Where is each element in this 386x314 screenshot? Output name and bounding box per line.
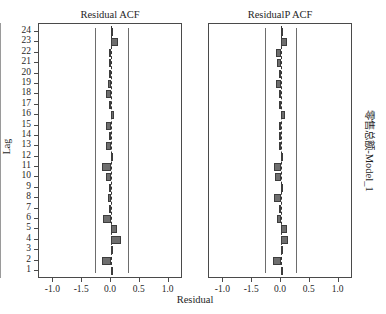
lag-tick-label: 2 bbox=[26, 255, 31, 265]
lag-tick-label: 5 bbox=[26, 223, 31, 233]
lag-tick-label: 17 bbox=[22, 99, 32, 109]
acf-bar bbox=[109, 49, 111, 57]
acf-bar bbox=[108, 80, 111, 88]
acf-bar bbox=[111, 236, 121, 244]
lag-tick-mark bbox=[34, 239, 38, 240]
x-tick-mark bbox=[338, 278, 339, 282]
lag-tick-label: 9 bbox=[26, 182, 31, 192]
acf-bar bbox=[281, 28, 283, 36]
acf-bar bbox=[109, 70, 111, 78]
acf-bar bbox=[281, 236, 288, 244]
acf-bar bbox=[109, 101, 111, 109]
acf-bar bbox=[274, 194, 281, 202]
acf-bar bbox=[275, 173, 281, 181]
lag-tick-mark bbox=[34, 114, 38, 115]
lag-tick-mark bbox=[34, 218, 38, 219]
lag-tick-mark bbox=[34, 41, 38, 42]
acf-bar bbox=[106, 142, 111, 150]
acf-bar bbox=[281, 111, 285, 119]
lag-tick-label: 22 bbox=[22, 47, 32, 57]
x-tick-label: 0.5 bbox=[303, 284, 315, 294]
acf-bar bbox=[111, 246, 113, 254]
lag-tick-label: 1 bbox=[26, 265, 31, 275]
acf-bar bbox=[281, 225, 287, 233]
panel-title-acf: Residual ACF bbox=[38, 9, 182, 21]
lag-tick-mark bbox=[34, 135, 38, 136]
acf-bar bbox=[106, 90, 111, 98]
lag-tick-mark bbox=[34, 125, 38, 126]
x-tick-mark bbox=[168, 278, 169, 282]
acf-bar bbox=[279, 132, 281, 140]
acf-bar bbox=[274, 163, 281, 171]
acf-bar bbox=[111, 267, 113, 275]
x-tick-label: 0.0 bbox=[104, 284, 116, 294]
x-tick-mark bbox=[139, 278, 140, 282]
x-tick-mark bbox=[81, 278, 82, 282]
acf-bar bbox=[279, 122, 281, 130]
x-tick-label: -1.5 bbox=[74, 284, 89, 294]
acf-bar bbox=[106, 122, 111, 130]
lag-tick-mark bbox=[34, 260, 38, 261]
plot-panel-acf bbox=[38, 23, 182, 278]
plot-area-acf bbox=[39, 24, 181, 277]
lag-tick-mark bbox=[34, 52, 38, 53]
lag-tick-mark bbox=[34, 249, 38, 250]
lag-tick-label: 23 bbox=[22, 36, 32, 46]
model-label-container: 零售总额-Model_1 bbox=[356, 23, 382, 278]
lag-tick-mark bbox=[34, 187, 38, 188]
acf-bar bbox=[281, 246, 283, 254]
acf-bar bbox=[103, 215, 111, 223]
acf-bar bbox=[281, 267, 283, 275]
acf-bar bbox=[102, 163, 111, 171]
lag-tick-mark bbox=[34, 156, 38, 157]
confidence-limit-line-upper bbox=[128, 28, 129, 273]
acf-bar bbox=[109, 132, 111, 140]
acf-bar bbox=[281, 184, 283, 192]
acf-bar bbox=[111, 28, 113, 36]
confidence-limit-line-lower bbox=[265, 28, 266, 273]
lag-tick-mark bbox=[34, 176, 38, 177]
x-tick-label: 0.0 bbox=[274, 284, 286, 294]
lag-tick-mark bbox=[34, 31, 38, 32]
acf-bar bbox=[281, 153, 283, 161]
x-tick-mark bbox=[251, 278, 252, 282]
confidence-limit-line-lower bbox=[95, 28, 96, 273]
acf-bar bbox=[111, 111, 114, 119]
acf-bar bbox=[111, 153, 113, 161]
plot-area-pacf bbox=[209, 24, 351, 277]
x-tick-mark bbox=[309, 278, 310, 282]
acf-bar bbox=[277, 215, 281, 223]
x-axis-title: Residual bbox=[120, 294, 270, 306]
x-tick-mark bbox=[52, 278, 53, 282]
lag-axis-title: Lag bbox=[1, 130, 12, 164]
confidence-limit-line-upper bbox=[296, 28, 297, 273]
lag-tick-mark bbox=[34, 93, 38, 94]
lag-tick-label: 6 bbox=[26, 213, 31, 223]
x-tick-label: 1.0 bbox=[332, 284, 344, 294]
lag-tick-label: 11 bbox=[22, 161, 31, 171]
lag-tick-label: 24 bbox=[22, 26, 32, 36]
acf-bar bbox=[273, 257, 281, 265]
lag-tick-mark bbox=[34, 62, 38, 63]
lag-tick-label: 4 bbox=[26, 234, 31, 244]
acf-bar bbox=[102, 257, 111, 265]
lag-tick-label: 8 bbox=[26, 192, 31, 202]
acf-bar bbox=[277, 59, 281, 67]
x-tick-mark bbox=[222, 278, 223, 282]
lag-tick-label: 10 bbox=[22, 171, 32, 181]
acf-bar bbox=[279, 142, 281, 150]
model-label: 零售总额-Model_1 bbox=[363, 110, 375, 191]
lag-tick-mark bbox=[34, 228, 38, 229]
acf-pacf-figure: Residual ACF ResidualP ACF Lag 123456789… bbox=[0, 0, 386, 314]
lag-tick-mark bbox=[34, 145, 38, 146]
x-tick-mark bbox=[280, 278, 281, 282]
acf-bar bbox=[281, 38, 287, 46]
lag-tick-label: 13 bbox=[22, 140, 32, 150]
x-tick-mark bbox=[110, 278, 111, 282]
lag-tick-mark bbox=[34, 166, 38, 167]
lag-tick-label: 15 bbox=[22, 120, 32, 130]
x-tick-label: -1.0 bbox=[215, 284, 230, 294]
lag-tick-mark bbox=[34, 83, 38, 84]
lag-tick-mark bbox=[34, 104, 38, 105]
acf-bar bbox=[109, 184, 111, 192]
